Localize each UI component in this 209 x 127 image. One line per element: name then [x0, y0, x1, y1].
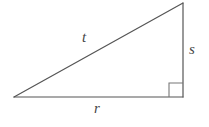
right-angle-square-icon	[169, 83, 183, 97]
hypotenuse-label: t	[82, 30, 86, 45]
hypotenuse-line	[14, 3, 183, 97]
vertical-leg-label: s	[189, 42, 195, 57]
triangle-figure: t s r	[0, 0, 209, 127]
triangle-drawing	[0, 0, 209, 127]
horizontal-leg-label: r	[94, 101, 100, 116]
